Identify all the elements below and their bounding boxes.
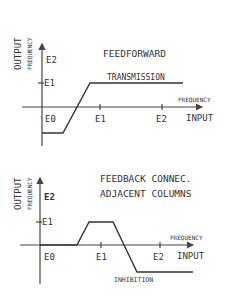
top-y-tick-e2-label: E2 [46, 55, 57, 65]
top-y-axis-sublabel: FREQUENCY [26, 37, 33, 70]
top-x-axis-sublabel: FREQUENCY [178, 96, 211, 103]
bottom-x-tick-e2-label: E2 [153, 252, 164, 262]
bottom-y-tick-e1-label: E1 [42, 217, 53, 227]
top-panel: OUTPUT FREQUENCY E2 E1 E0 E1 E2 FREQUENC… [13, 37, 214, 146]
bottom-panel: OUTPUT FREQUENCY E2 E1 E0 E1 E2 FREQUENC… [13, 173, 205, 284]
diagram-canvas: OUTPUT FREQUENCY E2 E1 E0 E1 E2 FREQUENC… [0, 0, 237, 299]
bottom-title-line1: FEEDBACK CONNEC. [100, 173, 192, 184]
bottom-x-axis-sublabel: FREQUENCY [170, 234, 203, 241]
bottom-x-axis-label: INPUT [177, 251, 205, 261]
top-title: FEEDFORWARD [103, 48, 166, 59]
bottom-x-tick-e1-label: E1 [96, 252, 107, 262]
bottom-y-tick-e2-label: E2 [44, 192, 55, 202]
top-x-tick-e0-label: E0 [45, 114, 56, 124]
bottom-title-line2: ADJACENT COLUMNS [100, 188, 192, 199]
top-x-tick-e2-label: E2 [156, 114, 167, 124]
top-y-axis-label: OUTPUT [13, 37, 23, 70]
bottom-transfer-curve [40, 222, 193, 272]
top-x-tick-e1-label: E1 [95, 114, 106, 124]
top-x-axis-label: INPUT [186, 113, 214, 123]
bottom-y-axis-label: OUTPUT [13, 177, 23, 210]
bottom-x-tick-e0-label: E0 [44, 252, 55, 262]
top-y-tick-e1-label: E1 [44, 78, 55, 88]
bottom-curve-label: INHIBITION [114, 276, 153, 284]
bottom-y-axis-sublabel: FREQUENCY [26, 177, 33, 210]
top-curve-label: TRANSMISSION [107, 73, 165, 82]
